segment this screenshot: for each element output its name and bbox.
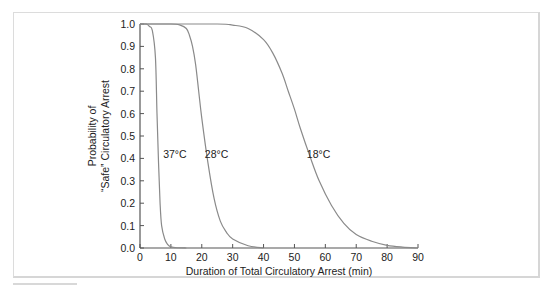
curve-label: 37°C	[163, 148, 187, 160]
y-tick-label: 0.7	[120, 85, 135, 97]
y-tick-label: 0.9	[120, 40, 135, 52]
x-tick-label: 70	[350, 251, 362, 263]
x-tick-label: 20	[196, 251, 208, 263]
curve-label: 18°C	[307, 148, 331, 160]
y-tick-label: 0.8	[120, 63, 135, 75]
y-tick-label: 0.0	[120, 242, 135, 254]
y-tick-label: 0.3	[120, 175, 135, 187]
curve-18c	[140, 24, 418, 248]
curve-labels: 37°C28°C18°C	[163, 148, 331, 160]
line-chart: 01020304050607080900.00.10.20.30.40.50.6…	[0, 0, 550, 296]
x-axis-title: Duration of Total Circulatory Arrest (mi…	[186, 265, 373, 277]
curve-label: 28°C	[205, 148, 229, 160]
y-tick-label: 0.4	[120, 152, 135, 164]
y-axis-title: Probability of “Safe” Circulatory Arrest	[86, 80, 111, 192]
axes: 01020304050607080900.00.10.20.30.40.50.6…	[120, 18, 424, 263]
x-tick-label: 50	[289, 251, 301, 263]
curve-37c	[140, 24, 186, 248]
x-tick-label: 10	[165, 251, 177, 263]
x-tick-label: 90	[412, 251, 424, 263]
x-tick-label: 80	[381, 251, 393, 263]
y-tick-label: 0.1	[120, 220, 135, 232]
x-tick-label: 40	[258, 251, 270, 263]
y-tick-label: 0.5	[120, 130, 135, 142]
x-tick-label: 30	[227, 251, 239, 263]
x-tick-label: 0	[137, 251, 143, 263]
y-axis-title-line-1: Probability of	[86, 106, 98, 167]
curves	[140, 24, 418, 248]
curve-28c	[140, 24, 264, 248]
y-tick-label: 0.2	[120, 197, 135, 209]
y-tick-label: 0.6	[120, 108, 135, 120]
y-axis-title-line-2: “Safe” Circulatory Arrest	[99, 80, 111, 192]
x-tick-label: 60	[319, 251, 331, 263]
y-tick-label: 1.0	[120, 18, 135, 30]
